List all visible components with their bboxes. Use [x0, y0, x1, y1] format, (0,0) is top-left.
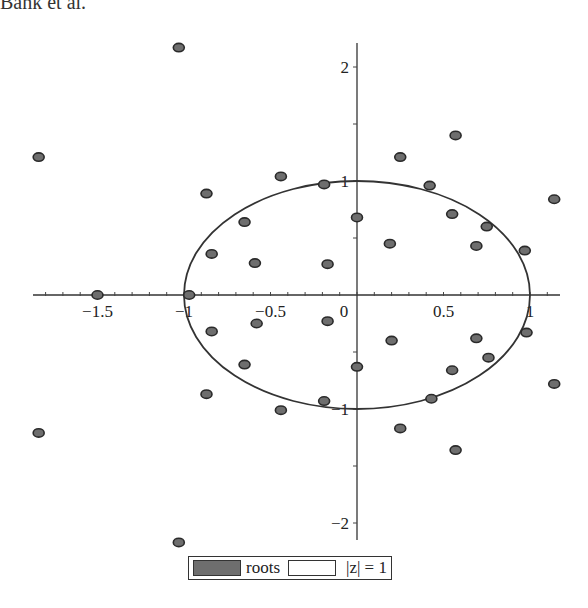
root-point — [450, 131, 461, 139]
root-point — [386, 336, 397, 344]
root-point — [384, 240, 395, 248]
root-point — [319, 397, 330, 405]
root-point — [447, 210, 458, 218]
axes — [33, 43, 560, 540]
root-point — [519, 246, 530, 254]
root-point — [201, 189, 212, 197]
root-point — [395, 153, 406, 161]
root-point — [239, 360, 250, 368]
root-point — [173, 538, 184, 546]
legend-label-roots: roots — [246, 558, 280, 578]
root-point — [249, 259, 260, 267]
scatter-plot: −1.5−1−0.500.5121−1−2 — [0, 0, 588, 608]
root-point — [33, 429, 44, 437]
x-tick-label: 0.5 — [433, 302, 454, 321]
root-point — [275, 406, 286, 414]
root-point — [395, 424, 406, 432]
root-point — [447, 366, 458, 374]
root-point — [483, 354, 494, 362]
y-tick-label: 2 — [341, 58, 350, 77]
x-tick-label: −1.5 — [82, 302, 113, 321]
root-point — [322, 260, 333, 268]
root-point — [471, 242, 482, 250]
root-point — [184, 291, 195, 299]
root-point — [319, 180, 330, 188]
root-point — [173, 43, 184, 51]
root-point — [471, 334, 482, 342]
y-tick-label: −2 — [331, 514, 349, 533]
root-point — [352, 213, 363, 221]
root-point — [549, 380, 560, 388]
legend-swatch-unit-circle — [288, 560, 336, 576]
root-point — [275, 172, 286, 180]
root-point — [33, 153, 44, 161]
root-point — [426, 395, 437, 403]
root-point — [521, 328, 532, 336]
root-point — [322, 317, 333, 325]
legend: roots |z| = 1 — [188, 556, 392, 580]
legend-swatch-roots — [193, 560, 241, 576]
legend-label-unit-circle: |z| = 1 — [346, 558, 387, 578]
root-point — [92, 291, 103, 299]
root-point — [206, 250, 217, 258]
root-point — [201, 390, 212, 398]
x-tick-label: −0.5 — [255, 302, 286, 321]
root-point — [424, 181, 435, 189]
x-tick-label: 0 — [340, 302, 349, 321]
root-point — [239, 218, 250, 226]
root-point — [481, 222, 492, 230]
root-point — [206, 327, 217, 335]
root-point — [549, 195, 560, 203]
root-point — [450, 446, 461, 454]
root-point — [352, 363, 363, 371]
root-point — [251, 319, 262, 327]
